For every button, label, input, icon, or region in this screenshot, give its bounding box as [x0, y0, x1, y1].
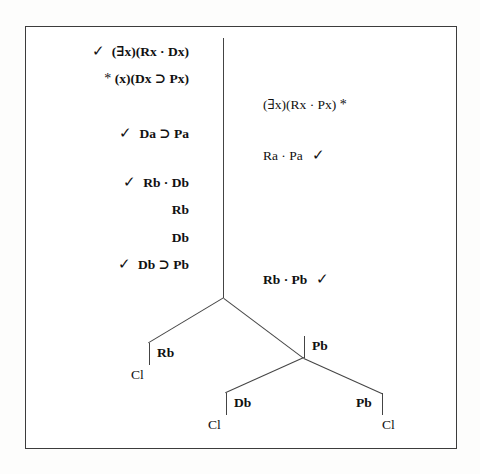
- branch-closed-marker-upper-left: Cl: [131, 367, 144, 383]
- branch-label-lower-left: Db: [234, 395, 251, 411]
- leaf-stub-upper-left: [149, 343, 150, 365]
- tree-trunk-line: [223, 38, 224, 298]
- checkmark-icon: ✓: [115, 126, 132, 141]
- branch-line-left-upper: [148, 297, 224, 343]
- formula-text: Rb: [172, 202, 189, 217]
- leaf-stub-upper-right: [304, 336, 305, 358]
- branch-label-upper-right: Pb: [312, 338, 328, 354]
- branch-label-upper-left: Rb: [157, 345, 174, 361]
- branch-line-left-lower: [226, 357, 304, 393]
- formula-text: Db ⊃ Pb: [138, 257, 189, 272]
- checkmark-icon: ✓: [88, 44, 105, 59]
- formula-text: Ra · Pa: [263, 148, 303, 163]
- trunk-line-3: ✓Da ⊃ Pa: [115, 126, 189, 141]
- branch-line-right-lower: [304, 358, 382, 394]
- asterisk-marker: *: [104, 71, 111, 86]
- trunk-line-1: ✓(∃x)(Rx · Dx): [88, 44, 189, 59]
- asterisk-marker: *: [340, 97, 347, 112]
- formula-text: (∃x)(Rx · Dx): [112, 44, 189, 59]
- checkmark-icon: ✓: [316, 272, 333, 287]
- checkmark-icon: ✓: [114, 257, 131, 272]
- formula-text: Rb · Pb: [263, 272, 307, 287]
- figure-border: ✓(∃x)(Rx · Dx) * (x)(Dx ⊃ Px) ✓Da ⊃ Pa ✓…: [25, 26, 457, 449]
- branch-closed-marker-lower-left: Cl: [208, 417, 221, 433]
- trunk-right-line-2: Ra · Pa✓: [263, 148, 329, 163]
- trunk-line-6: Db: [148, 231, 189, 245]
- checkmark-icon: ✓: [119, 175, 136, 190]
- trunk-line-4: ✓Rb · Db: [119, 175, 189, 190]
- checkmark-icon: ✓: [312, 148, 329, 163]
- trunk-line-2: * (x)(Dx ⊃ Px): [104, 72, 189, 86]
- branch-closed-marker-lower-right: Cl: [382, 417, 395, 433]
- formula-text: Da ⊃ Pa: [139, 126, 189, 141]
- figure-canvas: ✓(∃x)(Rx · Dx) * (x)(Dx ⊃ Px) ✓Da ⊃ Pa ✓…: [0, 0, 480, 474]
- trunk-line-5: Rb: [148, 203, 189, 217]
- formula-text: (∃x)(Rx · Px): [263, 97, 336, 112]
- formula-text: (x)(Dx ⊃ Px): [115, 71, 189, 86]
- leaf-stub-lower-left: [226, 393, 227, 415]
- trunk-right-line-1: (∃x)(Rx · Px) *: [263, 98, 347, 112]
- formula-text: Db: [172, 230, 189, 245]
- formula-text: Rb · Db: [143, 175, 189, 190]
- branch-label-lower-right: Pb: [356, 395, 372, 411]
- leaf-stub-lower-right: [382, 393, 383, 415]
- trunk-line-7: ✓Db ⊃ Pb: [114, 257, 189, 272]
- branch-line-right-upper: [223, 298, 304, 359]
- trunk-right-line-3: Rb · Pb✓: [263, 272, 333, 287]
